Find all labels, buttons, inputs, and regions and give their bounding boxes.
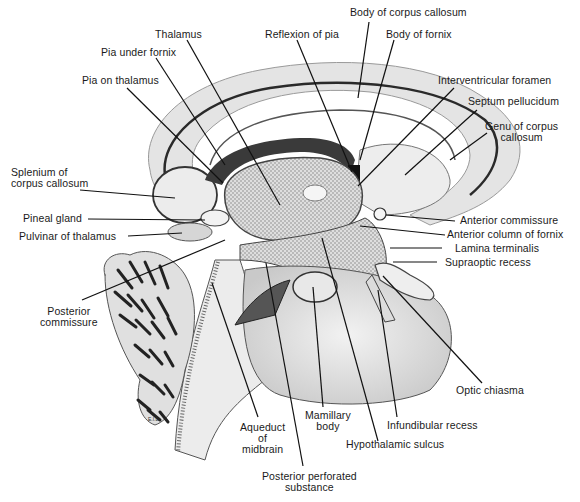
- label-posterior-perforated-substance: Posterior perforated substance: [262, 471, 357, 493]
- pineal-gland: [201, 210, 229, 226]
- label-pineal-gland: Pineal gland: [23, 213, 82, 224]
- label-lamina-terminalis: Lamina terminalis: [455, 243, 539, 254]
- label-mamillary-body: Mamillary body: [305, 410, 351, 432]
- label-thalamus: Thalamus: [155, 29, 202, 40]
- pulvinar: [168, 223, 212, 241]
- label-optic-chiasma: Optic chiasma: [456, 385, 524, 396]
- label-anterior-column-of-fornix: Anterior column of fornix: [447, 229, 563, 240]
- artist-signature: E.I.L.: [148, 416, 160, 422]
- label-interventricular-foramen: Interventricular foramen: [438, 75, 551, 86]
- anterior-commissure: [374, 208, 386, 220]
- mamillary-body: [293, 272, 337, 302]
- label-reflexion-of-pia: Reflexion of pia: [265, 29, 339, 40]
- label-pia-under-fornix: Pia under fornix: [101, 47, 176, 58]
- label-supraoptic-recess: Supraoptic recess: [445, 257, 531, 268]
- label-splenium-of-corpus-callosum: Splenium of corpus callosum: [11, 167, 88, 189]
- label-infundibular-recess: Infundibular recess: [387, 420, 478, 431]
- anatomy-figure: E.I.L.: [0, 0, 580, 502]
- label-posterior-commissure: Posterior commissure: [40, 306, 98, 328]
- label-pia-on-thalamus: Pia on thalamus: [82, 75, 159, 86]
- label-pulvinar-of-thalamus: Pulvinar of thalamus: [19, 231, 116, 242]
- label-aqueduct-of-midbrain: Aqueduct of midbrain: [240, 422, 285, 455]
- label-body-of-corpus-callosum: Body of corpus callosum: [350, 7, 467, 18]
- label-genu-of-corpus-callosum: Genu of corpus callosum: [485, 121, 558, 143]
- label-hypothalamic-sulcus: Hypothalamic sulcus: [346, 439, 444, 450]
- label-septum-pellucidum: Septum pellucidum: [468, 96, 559, 107]
- label-body-of-fornix: Body of fornix: [386, 29, 452, 40]
- label-anterior-commissure: Anterior commissure: [460, 215, 558, 226]
